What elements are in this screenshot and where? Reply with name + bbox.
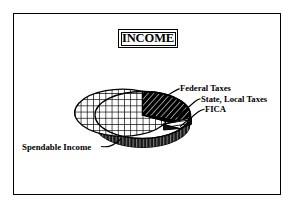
label-spendable-income: Spendable Income [22,143,91,152]
figure-root: INCOME [0,0,295,213]
label-federal-taxes: Federal Taxes [180,84,231,93]
label-fica: FICA [205,105,226,114]
label-state-local-taxes: State, Local Taxes [201,95,267,104]
pie-chart [0,0,295,213]
